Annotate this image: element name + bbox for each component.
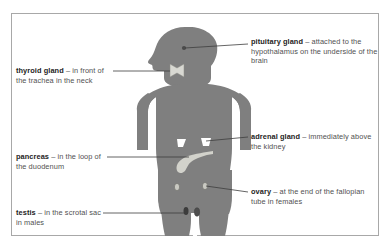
callout-dash-pancreas: – [49, 152, 57, 161]
head-and-neck-shape [148, 27, 217, 87]
human-body-silhouette [137, 27, 251, 236]
callout-dash-testis: – [36, 208, 44, 217]
callout-pancreas: pancreas – in the loop of the duodenum [16, 152, 108, 171]
groin-notch [191, 213, 199, 236]
callout-thyroid: thyroid gland – in front of the trachea … [16, 66, 114, 85]
pelvis-shape [158, 170, 232, 214]
callout-term-pancreas: pancreas [16, 152, 49, 161]
callout-testis: testis – in the scrotal sac in males [16, 208, 104, 227]
callout-ovary: ovary – at the end of the fallopian tube… [251, 187, 375, 206]
callout-pituitary: pituitary gland – attached to the hypoth… [251, 37, 379, 66]
right-leg-shape [199, 210, 229, 236]
callout-adrenal: adrenal gland – immediately above the ki… [251, 132, 377, 151]
callout-dash-ovary: – [271, 187, 279, 196]
callout-term-adrenal: adrenal gland [251, 132, 300, 141]
callout-term-pituitary: pituitary gland [251, 37, 303, 46]
callout-term-thyroid: thyroid gland [16, 66, 64, 75]
callout-dash-thyroid: – [64, 66, 72, 75]
right-arm-shape [232, 93, 251, 150]
endocrine-glands-figure: pituitary gland – attached to the hypoth… [0, 0, 391, 250]
testis-right [194, 208, 199, 216]
ovary-left [174, 183, 179, 190]
testis-left [184, 207, 189, 215]
callout-term-testis: testis [16, 208, 36, 217]
left-arm-shape [137, 93, 156, 150]
callout-term-ovary: ovary [251, 187, 271, 196]
